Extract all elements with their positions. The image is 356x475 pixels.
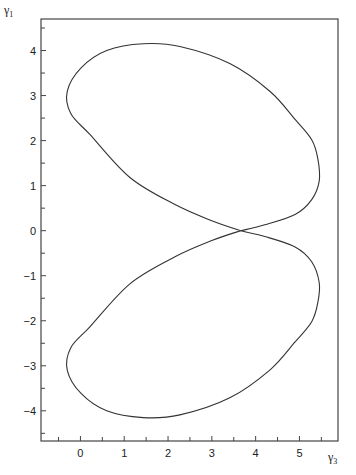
y-tick-label: 0 — [30, 225, 36, 237]
x-axis-ticks: 012345 — [59, 436, 322, 459]
y-tick-label: −3 — [23, 360, 36, 372]
y-axis-ticks: −4−3−2−101234 — [23, 28, 46, 433]
y-tick-label: −2 — [23, 315, 36, 327]
x-tick-label: 2 — [165, 447, 171, 459]
x-tick-label: 3 — [209, 447, 215, 459]
x-tick-label: 5 — [296, 447, 302, 459]
y-tick-label: 4 — [30, 45, 36, 57]
x-tick-label: 4 — [253, 447, 259, 459]
y-axis-label: γ1 — [3, 3, 13, 19]
x-axis-label: γ3 — [327, 450, 337, 466]
y-tick-label: 1 — [30, 180, 36, 192]
y-tick-label: 2 — [30, 135, 36, 147]
x-tick-label: 1 — [121, 447, 127, 459]
trajectory-curve — [67, 43, 320, 417]
x-tick-label: 0 — [77, 447, 83, 459]
y-tick-label: −4 — [23, 405, 36, 417]
y-tick-label: −1 — [23, 270, 36, 282]
phase-plot: 012345 −4−3−2−101234 γ1 γ3 — [0, 0, 356, 475]
y-tick-label: 3 — [30, 90, 36, 102]
plot-frame — [41, 19, 338, 441]
